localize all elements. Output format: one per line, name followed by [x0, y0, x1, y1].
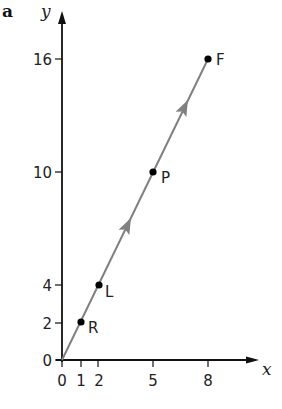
x-axis-arrow-icon [246, 357, 259, 364]
y-tick-16: 16 [33, 51, 52, 69]
point-label-F: F [216, 51, 225, 69]
point-label-L: L [105, 283, 114, 301]
point-P: P [149, 168, 170, 187]
x-tick-2: 2 [94, 372, 104, 390]
y-axis-arrow-icon [58, 11, 66, 24]
direction-arrow-icon [119, 215, 137, 235]
point-L: L [95, 281, 114, 301]
y-tick-10: 10 [33, 164, 52, 182]
point-label-P: P [161, 169, 170, 187]
x-tick-8: 8 [203, 372, 213, 390]
y-tick-4: 4 [42, 277, 52, 295]
x-tick-0: 0 [57, 372, 67, 390]
x-tick-1: 1 [76, 372, 86, 390]
direction-arrow-icon [176, 97, 194, 117]
y-tick-2: 2 [42, 315, 52, 333]
x-axis-label: x [262, 359, 272, 379]
x-tick-5: 5 [148, 372, 158, 390]
panel-label: a [2, 1, 13, 21]
y-ticks: 16 10 4 2 0 [33, 51, 62, 370]
y-axis-label: y [40, 1, 51, 21]
point-F: F [204, 51, 224, 69]
diagram: a y x 16 10 4 2 0 0 1 2 5 8 [0, 0, 282, 409]
point-R: R [77, 318, 98, 337]
y-tick-0: 0 [42, 352, 52, 370]
point-label-R: R [88, 319, 98, 337]
x-ticks: 0 1 2 5 8 [57, 360, 213, 390]
